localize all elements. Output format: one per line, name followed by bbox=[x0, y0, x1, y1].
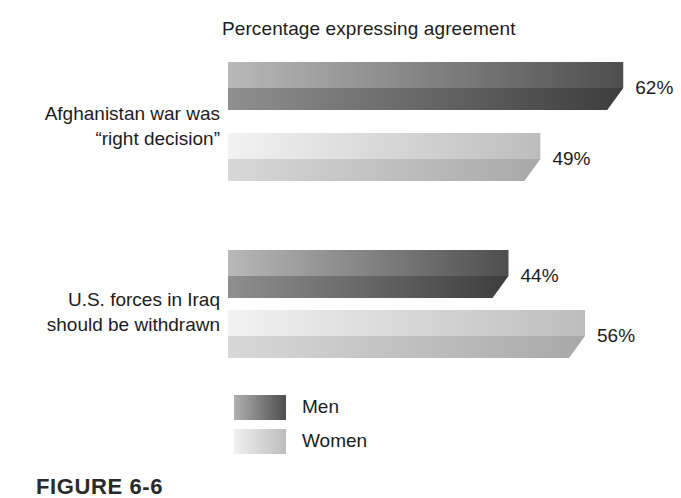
value-label-49: 49% bbox=[552, 148, 590, 170]
category-label-line: “right decision” bbox=[14, 126, 220, 151]
category-label-afghanistan: Afghanistan war was “right decision” bbox=[14, 101, 220, 151]
legend-item-men: Men bbox=[234, 390, 367, 424]
legend-swatch-women bbox=[234, 429, 286, 454]
value-label-56: 56% bbox=[597, 325, 635, 347]
legend-label-women: Women bbox=[302, 430, 367, 452]
bar-men-44 bbox=[228, 250, 511, 298]
category-label-line: should be withdrawn bbox=[14, 312, 220, 337]
category-label-line: Afghanistan war was bbox=[14, 101, 220, 126]
legend-item-women: Women bbox=[234, 424, 367, 458]
legend-label-men: Men bbox=[302, 396, 339, 418]
category-label-line: U.S. forces in Iraq bbox=[14, 287, 220, 312]
bar-women-56 bbox=[228, 310, 587, 358]
figure-caption: FIGURE 6-6 bbox=[36, 474, 163, 498]
legend-swatch-men bbox=[234, 395, 286, 420]
value-label-44: 44% bbox=[521, 265, 559, 287]
value-label-62: 62% bbox=[635, 77, 673, 99]
category-label-iraq: U.S. forces in Iraq should be withdrawn bbox=[14, 287, 220, 337]
chart-title: Percentage expressing agreement bbox=[222, 18, 516, 40]
chart-legend: Men Women bbox=[234, 390, 367, 458]
bar-men-62 bbox=[228, 62, 625, 110]
bar-women-49 bbox=[228, 133, 542, 181]
